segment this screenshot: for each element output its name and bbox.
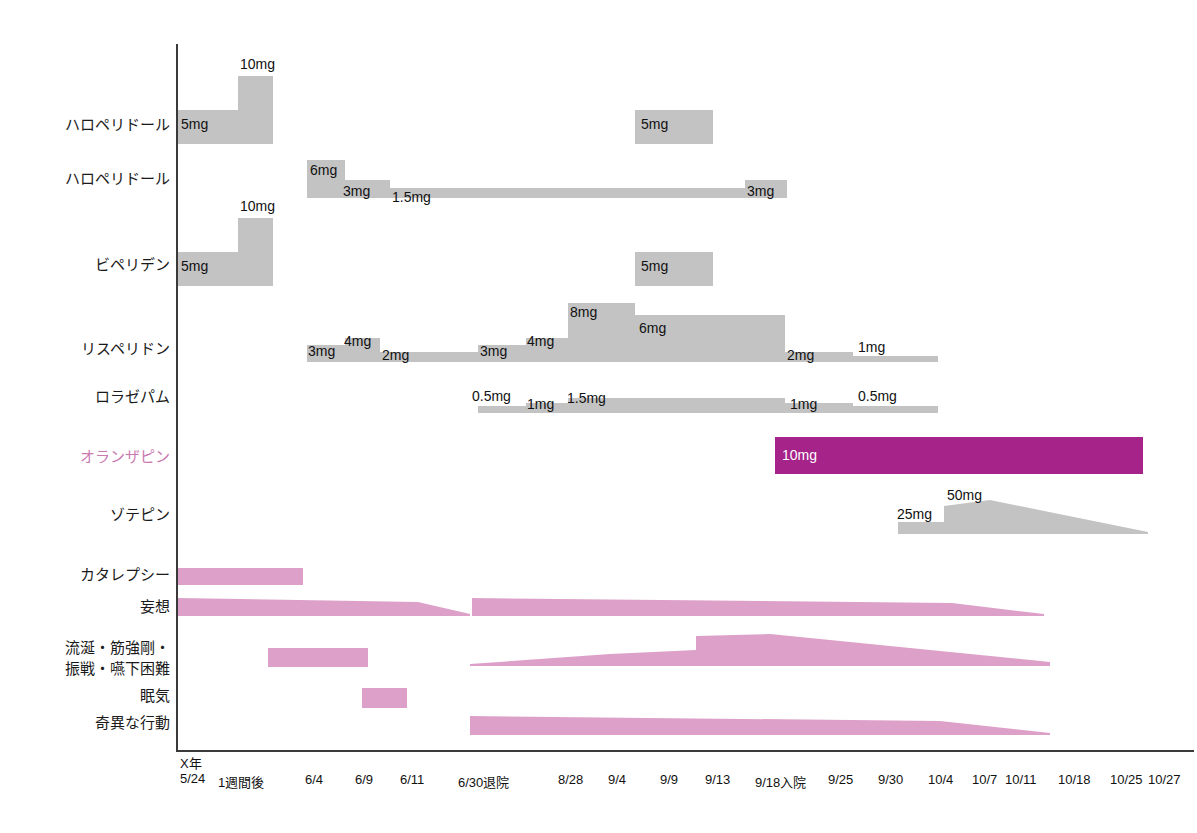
x-label-first-line2: 5/24 <box>180 771 205 786</box>
x-label-1011: 10/11 <box>1005 772 1037 787</box>
symptom-band-catalepsy <box>178 568 303 585</box>
x-label-0913: 9/13 <box>705 772 730 787</box>
dose-label-risperidone-8mg: 8mg <box>570 304 597 320</box>
dose-label-risperidone-4mg: 4mg <box>344 333 371 349</box>
dose-label-risperidone-3mg-2: 3mg <box>480 343 507 359</box>
dose-label-haloperidol2-6mg: 6mg <box>310 162 337 178</box>
x-label-0930: 9/30 <box>878 772 903 787</box>
symptom-band-eps-early <box>268 648 368 667</box>
x-label-0609: 6/9 <box>355 772 373 787</box>
x-label-1018: 10/18 <box>1058 772 1091 787</box>
dose-label-zotepine-50mg: 50mg <box>947 487 982 503</box>
dose-label-lorazepam-0p5mg-2: 0.5mg <box>858 388 897 404</box>
dose-label-risperidone-2mg-2: 2mg <box>787 347 814 363</box>
row-label-haloperidol-2: ハロペリドール <box>20 170 170 189</box>
dose-bar-haloperidol2-1p5mg <box>390 188 745 198</box>
medication-timeline-figure: ハロペリドール ハロペリドール ビペリデン リスペリドン ロラゼパム オランザピ… <box>0 0 1197 833</box>
dose-label-risperidone-3mg: 3mg <box>308 343 335 359</box>
x-label-1025: 10/25 <box>1110 772 1143 787</box>
symptom-band-eps-main <box>470 632 1050 670</box>
x-label-0611: 6/11 <box>400 772 424 787</box>
y-axis-line <box>176 44 178 751</box>
row-label-olanzapine: オランザピン <box>20 448 170 467</box>
x-label-0828: 8/28 <box>558 772 583 787</box>
row-label-lorazepam: ロラゼパム <box>20 388 170 407</box>
row-label-delusion: 妄想 <box>20 598 170 617</box>
row-label-haloperidol-1: ハロペリドール <box>20 116 170 135</box>
dose-label-biperiden-10mg: 10mg <box>240 198 275 214</box>
x-label-1week: 1週間後 <box>218 772 264 791</box>
x-label-0604: 6/4 <box>305 772 323 787</box>
dose-label-biperiden-5mg-2: 5mg <box>641 258 668 274</box>
x-label-0909: 9/9 <box>660 772 678 787</box>
row-label-risperidone: リスペリドン <box>20 340 170 359</box>
dose-label-zotepine-25mg: 25mg <box>897 506 932 522</box>
x-label-0904: 9/4 <box>608 772 626 787</box>
dose-label-lorazepam-1mg-2: 1mg <box>790 396 817 412</box>
dose-label-risperidone-2mg: 2mg <box>382 347 409 363</box>
x-axis-line <box>176 750 1194 752</box>
symptom-band-delusion-part2 <box>472 596 1044 618</box>
symptom-band-drowsiness <box>362 688 407 708</box>
dose-label-risperidone-4mg-2: 4mg <box>527 333 554 349</box>
dose-wedge-zotepine <box>898 494 1148 540</box>
dose-label-lorazepam-1mg: 1mg <box>527 396 554 412</box>
dose-label-olanzapine-10mg: 10mg <box>782 447 817 463</box>
x-label-1007: 10/7 <box>972 772 997 787</box>
row-label-eps-line2: 振戦・嚥下困難 <box>20 659 170 679</box>
row-label-bizarre-behavior: 奇異な行動 <box>20 714 170 733</box>
dose-label-risperidone-6mg: 6mg <box>639 320 666 336</box>
dose-label-risperidone-1mg: 1mg <box>858 339 885 355</box>
dose-bar-lorazepam-0p5mg <box>478 406 526 413</box>
symptom-band-bizarre-behavior <box>470 714 1050 738</box>
dose-bar-lorazepam-0p5mg-2 <box>853 406 938 413</box>
x-label-1027: 10/27 <box>1148 772 1181 787</box>
dose-bar-olanzapine-10mg <box>775 437 1143 474</box>
x-label-1004: 10/4 <box>928 772 953 787</box>
row-label-catalepsy: カタレプシー <box>20 566 170 585</box>
row-label-eps-line1: 流涎・筋強剛・ <box>20 638 170 658</box>
symptom-band-delusion-part1 <box>178 596 470 618</box>
x-label-first: X年 5/24 <box>180 757 205 786</box>
dose-label-lorazepam-0p5mg: 0.5mg <box>472 388 511 404</box>
dose-label-haloperidol2-3mg: 3mg <box>343 183 370 199</box>
dose-label-haloperidol2-3mg-2: 3mg <box>747 183 774 199</box>
dose-label-haloperidol1-10mg: 10mg <box>240 56 275 72</box>
x-label-0925: 9/25 <box>828 772 853 787</box>
x-label-0630-discharge: 6/30退院 <box>458 772 509 791</box>
x-label-0918-admission: 9/18入院 <box>755 772 806 791</box>
dose-label-haloperidol1-5mg: 5mg <box>181 116 208 132</box>
dose-label-haloperidol1-5mg-2: 5mg <box>641 116 668 132</box>
dose-bar-risperidone-1mg <box>853 356 938 362</box>
x-label-first-line1: X年 <box>180 756 202 771</box>
row-label-biperiden: ビペリデン <box>20 256 170 275</box>
row-label-zotepine: ゾテピン <box>20 506 170 525</box>
dose-bar-haloperidol1-10mg <box>238 76 273 144</box>
dose-label-haloperidol2-1p5mg: 1.5mg <box>392 189 431 205</box>
dose-label-lorazepam-1p5mg: 1.5mg <box>567 390 606 406</box>
dose-label-biperiden-5mg: 5mg <box>181 258 208 274</box>
dose-bar-biperiden-10mg <box>238 218 273 286</box>
row-label-drowsiness: 眠気 <box>20 687 170 706</box>
